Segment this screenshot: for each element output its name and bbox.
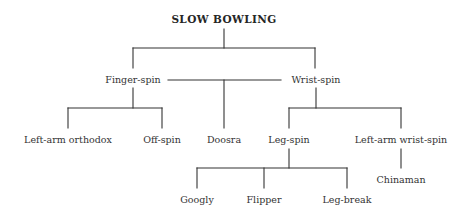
node-wrist-spin: Wrist-spin <box>292 75 341 85</box>
node-finger-spin: Finger-spin <box>105 75 160 85</box>
node-googly: Googly <box>180 195 214 205</box>
slow-bowling-diagram: SLOW BOWLING Finger-spin Wrist-spin Left… <box>0 0 472 219</box>
node-leg-spin: Leg-spin <box>268 135 309 145</box>
node-flipper: Flipper <box>247 195 282 205</box>
node-left-arm-wrist-spin: Left-arm wrist-spin <box>355 135 447 145</box>
node-slow-bowling: SLOW BOWLING <box>171 14 276 25</box>
node-off-spin: Off-spin <box>143 135 181 145</box>
connector-lines <box>0 0 472 219</box>
node-doosra: Doosra <box>207 135 241 145</box>
node-chinaman: Chinaman <box>377 175 426 185</box>
node-leg-break: Leg-break <box>323 195 372 205</box>
node-left-arm-orthodox: Left-arm orthodox <box>24 135 112 145</box>
